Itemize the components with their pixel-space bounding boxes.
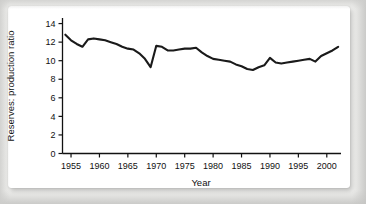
x-tick-label: 1975 xyxy=(175,161,195,171)
x-tick-label: 1960 xyxy=(89,161,109,171)
y-tick-label: 12 xyxy=(45,37,55,47)
y-tick-label: 6 xyxy=(50,93,55,103)
x-axis-ticks: 1955196019651970197519801985199019952000 xyxy=(61,154,337,171)
y-tick-label: 10 xyxy=(45,56,55,66)
x-tick-label: 1980 xyxy=(203,161,223,171)
x-tick-label: 1970 xyxy=(146,161,166,171)
y-axis-title: Reserves: production ratio xyxy=(5,31,16,142)
x-tick-label: 1995 xyxy=(288,161,308,171)
y-tick-label: 4 xyxy=(50,112,55,122)
x-tick-label: 1985 xyxy=(232,161,252,171)
y-tick-label: 0 xyxy=(50,149,55,159)
chart-screenshot: 02468101214 1955196019651970197519801985… xyxy=(0,0,366,204)
data-series-line xyxy=(65,35,338,70)
y-tick-label: 2 xyxy=(50,130,55,140)
line-chart: 02468101214 1955196019651970197519801985… xyxy=(0,0,366,204)
y-tick-label: 8 xyxy=(50,74,55,84)
x-tick-label: 2000 xyxy=(317,161,337,171)
x-tick-label: 1965 xyxy=(118,161,138,171)
x-tick-label: 1990 xyxy=(260,161,280,171)
y-tick-label: 14 xyxy=(45,19,55,29)
x-axis-title: Year xyxy=(191,177,210,188)
y-axis-ticks: 02468101214 xyxy=(45,19,62,159)
x-tick-label: 1955 xyxy=(61,161,81,171)
